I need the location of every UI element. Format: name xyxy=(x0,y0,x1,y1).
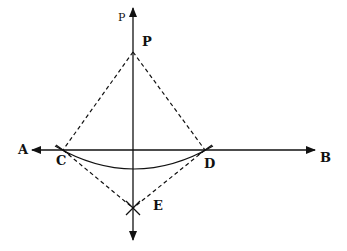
dashed-PC xyxy=(63,52,133,150)
label-P: P xyxy=(142,35,152,48)
label-B: B xyxy=(320,151,331,164)
dashed-PD xyxy=(133,52,205,150)
label-A: A xyxy=(18,143,28,156)
diagram-canvas: P P A B C D E xyxy=(0,0,347,251)
label-axis-p: P xyxy=(118,12,125,23)
construction-drawing xyxy=(0,0,347,251)
label-C: C xyxy=(56,154,66,167)
label-D: D xyxy=(204,157,215,170)
dashed-DE xyxy=(133,150,205,208)
label-E: E xyxy=(153,199,163,212)
dashed-CE xyxy=(63,150,133,208)
